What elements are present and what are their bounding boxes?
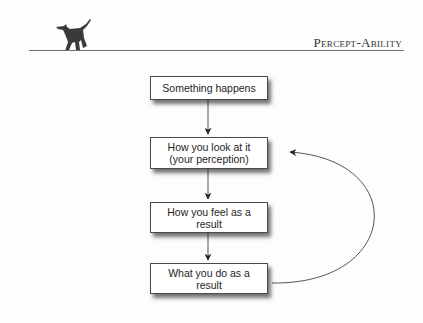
feedback-arrow-n4-n2 (272, 152, 374, 283)
flow-node-perception: How you look at it (your perception) (150, 137, 268, 169)
flow-node-feeling: How you feel as a result (150, 202, 268, 233)
flow-node-action: What you do as a result (150, 263, 268, 294)
flow-node-something-happens: Something happens (150, 76, 268, 100)
